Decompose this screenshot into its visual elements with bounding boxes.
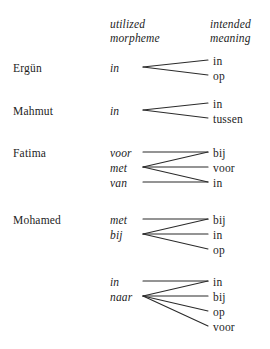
participant-name-ergun: Ergün: [13, 62, 42, 75]
meaning-mohamed-1: in: [213, 229, 222, 242]
morpheme-mahmut-0: in: [110, 105, 119, 118]
meaning-mahmut-1: tussen: [213, 113, 243, 126]
mapping-diagram: utilized morpheme intended meaning Ergün…: [0, 0, 270, 349]
morpheme-ergun-0: in: [110, 62, 119, 75]
link-fatima-1: [143, 152, 208, 167]
participant-name-fatima: Fatima: [13, 147, 46, 160]
link-mahmut-1: [143, 110, 208, 118]
morpheme-fatima-2: van: [110, 177, 127, 190]
meaning-fatima-1: voor: [213, 162, 235, 175]
meaning-ergun-1: op: [213, 70, 225, 83]
link-mohamed-3: [143, 234, 208, 249]
column-header-intended-meaning: intended meaning: [210, 17, 251, 45]
link-unnamed-1: [143, 281, 208, 296]
link-fatima-3: [143, 167, 208, 182]
meaning-fatima-2: in: [213, 177, 222, 190]
morpheme-fatima-0: voor: [110, 147, 132, 160]
link-ergun-0: [143, 60, 208, 67]
meaning-unnamed-2: op: [213, 306, 225, 319]
link-mohamed-1: [143, 219, 208, 234]
morpheme-unnamed-0: in: [110, 276, 119, 289]
meaning-unnamed-1: bij: [213, 291, 226, 304]
morpheme-mohamed-0: met: [110, 214, 127, 227]
meaning-ergun-0: in: [213, 55, 222, 68]
link-unnamed-3: [143, 296, 208, 311]
link-ergun-1: [143, 67, 208, 75]
morpheme-fatima-1: met: [110, 162, 127, 175]
meaning-unnamed-3: voor: [213, 321, 235, 334]
participant-name-mohamed: Mohamed: [13, 214, 61, 227]
meaning-unnamed-0: in: [213, 276, 222, 289]
meaning-mahmut-0: in: [213, 98, 222, 111]
meaning-mohamed-0: bij: [213, 214, 226, 227]
participant-name-mahmut: Mahmut: [13, 105, 53, 118]
meaning-mohamed-2: op: [213, 244, 225, 257]
morpheme-mohamed-1: bij: [110, 229, 123, 242]
meaning-fatima-0: bij: [213, 147, 226, 160]
column-header-utilized-morpheme: utilized morpheme: [110, 17, 160, 45]
link-mahmut-0: [143, 103, 208, 110]
morpheme-unnamed-1: naar: [110, 291, 132, 304]
link-unnamed-4: [143, 296, 208, 326]
